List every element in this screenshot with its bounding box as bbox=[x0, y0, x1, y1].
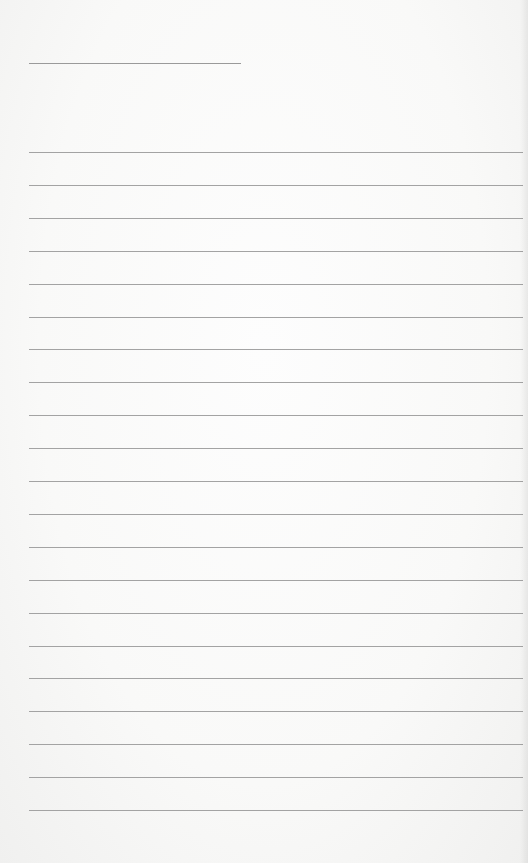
ruled-line bbox=[29, 810, 523, 811]
notepaper-page bbox=[0, 0, 528, 863]
ruled-line bbox=[29, 744, 523, 745]
ruled-line bbox=[29, 349, 523, 350]
ruled-line bbox=[29, 613, 523, 614]
ruled-line bbox=[29, 711, 523, 712]
ruled-line bbox=[29, 678, 523, 679]
ruled-line bbox=[29, 152, 523, 153]
ruled-line bbox=[29, 317, 523, 318]
ruled-line bbox=[29, 382, 523, 383]
ruled-line bbox=[29, 284, 523, 285]
ruled-line bbox=[29, 415, 523, 416]
ruled-line bbox=[29, 547, 523, 548]
ruled-line bbox=[29, 481, 523, 482]
title-line bbox=[29, 63, 241, 64]
ruled-line bbox=[29, 218, 523, 219]
ruled-line bbox=[29, 777, 523, 778]
ruled-line bbox=[29, 646, 523, 647]
ruled-line bbox=[29, 580, 523, 581]
ruled-line bbox=[29, 514, 523, 515]
ruled-line bbox=[29, 448, 523, 449]
page-edge-shadow bbox=[520, 0, 528, 863]
ruled-line bbox=[29, 185, 523, 186]
ruled-line bbox=[29, 251, 523, 252]
